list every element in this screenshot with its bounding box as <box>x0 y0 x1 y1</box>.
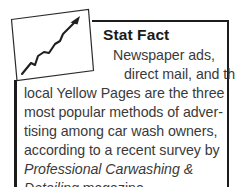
body-line: Newspaper ads, <box>113 47 215 63</box>
body-line: according to a recent survey by <box>24 142 220 158</box>
body-line: direct mail, and the <box>124 66 235 82</box>
upward-trend-chart-icon <box>8 6 96 84</box>
body-line: tising among car wash owners, <box>24 123 217 139</box>
stat-fact-callout: Stat Fact Newspaper ads, direct mail, an… <box>0 0 235 187</box>
page-title: Stat Fact <box>103 26 169 44</box>
body-line-source: Professional Carwashing & <box>24 161 193 177</box>
body-line-source-end: Detailing magazine. <box>24 180 148 187</box>
callout-left-border <box>14 80 17 187</box>
callout-top-border <box>92 20 229 22</box>
source-title-part: Detailing <box>24 180 79 187</box>
body-line: local Yellow Pages are the three <box>24 85 224 101</box>
body-line: most popular methods of adver- <box>24 104 223 120</box>
callout-right-border <box>227 20 229 187</box>
